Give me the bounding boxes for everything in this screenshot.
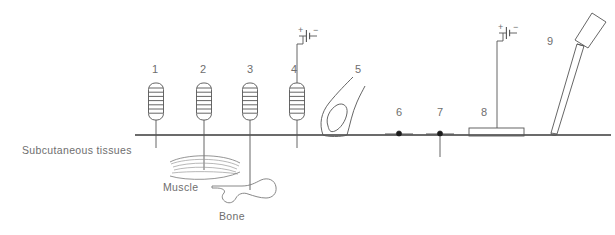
label-muscle: Muscle (163, 182, 198, 193)
item-number-1: 1 (150, 64, 160, 75)
label-bone: Bone (219, 211, 245, 222)
item-number-2: 2 (198, 64, 208, 75)
battery-minus-sign-item4: − (313, 26, 318, 35)
diagram-canvas: Subcutaneous tissues Muscle Bone 1 2 3 4… (0, 0, 615, 235)
item-number-6: 6 (394, 107, 404, 118)
item-number-8: 8 (479, 107, 489, 118)
coil-electrode-3 (243, 83, 258, 190)
coil-electrode-1 (149, 83, 164, 148)
battery-plus-sign-item8: + (498, 23, 503, 32)
item-number-9: 9 (545, 36, 555, 47)
diagram-vector-layer (0, 0, 615, 235)
item-number-5: 5 (353, 64, 363, 75)
bone-end (212, 179, 276, 203)
coil-electrode-4 (290, 30, 318, 148)
plate-electrode (469, 27, 524, 136)
battery-minus-sign-item8: − (513, 23, 518, 32)
coil-electrode-2 (197, 83, 212, 170)
item-number-4: 4 (289, 64, 299, 75)
muscle-fusiform (170, 156, 240, 180)
battery-plus-sign-item4: + (298, 26, 303, 35)
label-subcutaneous-tissues: Subcutaneous tissues (22, 145, 132, 156)
needle-instrument (0, 0, 606, 135)
item-number-7: 7 (435, 107, 445, 118)
item-number-3: 3 (245, 64, 255, 75)
fingertip-probe (321, 77, 365, 137)
